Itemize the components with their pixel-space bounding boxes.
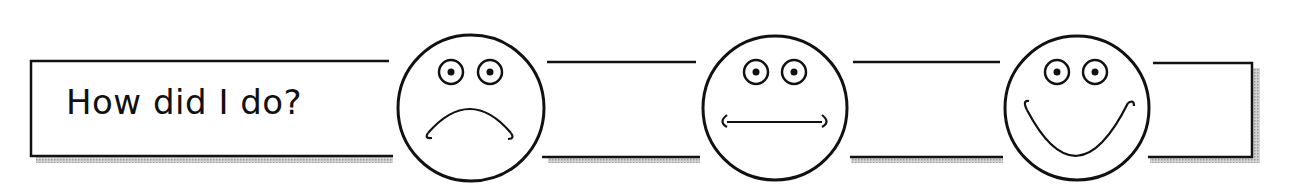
self-assessment-banner: How did I do? (0, 0, 1305, 186)
sad-face-option[interactable] (398, 35, 544, 181)
face-circle (703, 36, 847, 180)
prompt-title: How did I do? (66, 82, 302, 122)
neutral-face-option[interactable] (703, 36, 847, 180)
happy-face-option[interactable] (1005, 36, 1149, 180)
